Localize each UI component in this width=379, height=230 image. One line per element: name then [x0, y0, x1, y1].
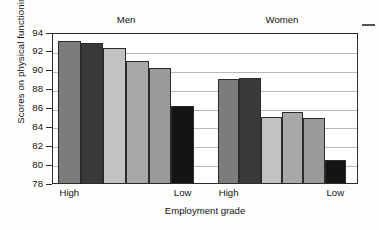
x-tick-label-women-low: Low — [312, 187, 358, 198]
bar — [171, 106, 194, 184]
panel-title-women: Women — [232, 14, 332, 25]
y-tick-mark — [46, 165, 52, 166]
y-tick-label: 82 — [0, 140, 43, 151]
bar — [58, 41, 81, 184]
bar-chart-figure: Scores on physical functioning 949290888… — [0, 0, 379, 230]
scan-artifact-dash — [362, 24, 375, 26]
y-tick-label: 94 — [0, 27, 43, 38]
bar — [325, 160, 346, 184]
y-tick-mark — [46, 184, 52, 185]
y-tick-label: 86 — [0, 102, 43, 113]
x-tick-label-women-high: High — [206, 187, 252, 198]
bar — [239, 78, 260, 184]
panel-title-men: Men — [76, 14, 176, 25]
y-tick-label: 90 — [0, 64, 43, 75]
y-tick-mark — [46, 70, 52, 71]
bar — [261, 117, 282, 184]
y-tick-label: 88 — [0, 83, 43, 94]
y-tick-mark — [46, 127, 52, 128]
bar — [303, 118, 324, 184]
y-tick-label: 84 — [0, 121, 43, 132]
y-tick-label: 78 — [0, 178, 43, 189]
bar — [126, 61, 149, 184]
bar — [103, 48, 126, 184]
x-tick-label-men-low: Low — [160, 187, 206, 198]
bar — [149, 68, 172, 184]
x-axis-title: Employment grade — [52, 205, 358, 216]
y-tick-mark — [46, 89, 52, 90]
y-tick-mark — [46, 33, 52, 34]
y-tick-mark — [46, 108, 52, 109]
y-tick-mark — [46, 146, 52, 147]
bar — [218, 79, 239, 184]
x-tick-label-men-high: High — [46, 187, 92, 198]
y-tick-label: 92 — [0, 45, 43, 56]
bar — [81, 43, 104, 184]
y-tick-label: 80 — [0, 159, 43, 170]
bar — [282, 112, 303, 184]
y-tick-mark — [46, 51, 52, 52]
